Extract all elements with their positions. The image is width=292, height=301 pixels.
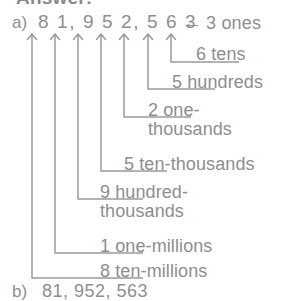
- callout-label-one-millions: 1 one-millions: [100, 237, 212, 256]
- callout-label-one-thousands: 2 one- thousands: [148, 101, 232, 140]
- callout-label-hundred-thousands: 9 hundred- thousands: [100, 183, 188, 222]
- callout-label-ones: 3 ones: [206, 14, 261, 32]
- part-a-marker: a): [12, 14, 27, 31]
- part-b-marker: b): [12, 283, 27, 300]
- left-arrow-icon: ←: [183, 13, 202, 32]
- answer-heading: Answer:: [16, 0, 92, 7]
- callout-label-tens: 6 tens: [196, 45, 246, 64]
- part-b-answer: 81, 952, 563: [42, 282, 148, 300]
- callout-label-ten-millions: 8 ten-millions: [100, 262, 207, 281]
- callout-label-hundreds: 5 hundreds: [172, 73, 263, 92]
- callout-label-ten-thousands: 5 ten-thousands: [124, 155, 255, 174]
- expanded-number: 8 1, 9 5 2, 5 6 3: [38, 12, 197, 31]
